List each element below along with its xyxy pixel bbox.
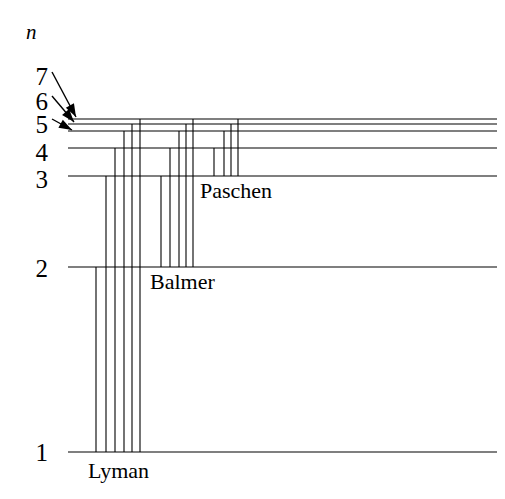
pointer-arrows [52, 72, 76, 130]
level-label-1: 1 [26, 440, 48, 465]
series-transitions-lyman [96, 119, 140, 452]
series-label-paschen: Paschen [200, 180, 272, 202]
energy-level-plot [0, 0, 505, 499]
level-label-5: 5 [26, 112, 48, 137]
pointer-arrow-head-n5 [58, 120, 72, 130]
series-label-lyman: Lyman [88, 460, 149, 482]
axis-label-n: n [26, 22, 37, 43]
level-label-7: 7 [26, 64, 48, 89]
energy-level-diagram: n 7654321 LymanBalmerPaschen [0, 0, 505, 499]
series-transitions-balmer [161, 119, 193, 267]
level-label-3: 3 [26, 167, 48, 192]
level-label-4: 4 [26, 140, 48, 165]
level-label-2: 2 [26, 256, 48, 281]
series-label-balmer: Balmer [150, 271, 215, 293]
